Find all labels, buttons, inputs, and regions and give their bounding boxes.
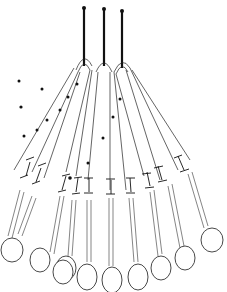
pin-holes (18, 80, 122, 180)
bobbin-7 (128, 198, 148, 290)
bobbin-4 (53, 200, 76, 284)
drawing (0, 0, 227, 292)
bobbins (1, 172, 223, 292)
bobbin-5 (77, 200, 97, 290)
bobbin-10 (188, 172, 223, 252)
bobbin-2 (18, 196, 50, 272)
bobbin-6 (102, 198, 122, 292)
bobbin-1 (1, 190, 24, 262)
threads (14, 68, 190, 190)
bobbin-9 (168, 184, 195, 270)
pins (82, 6, 124, 68)
bobbin-lace-illustration (0, 0, 227, 292)
bobbin-8 (150, 190, 171, 280)
